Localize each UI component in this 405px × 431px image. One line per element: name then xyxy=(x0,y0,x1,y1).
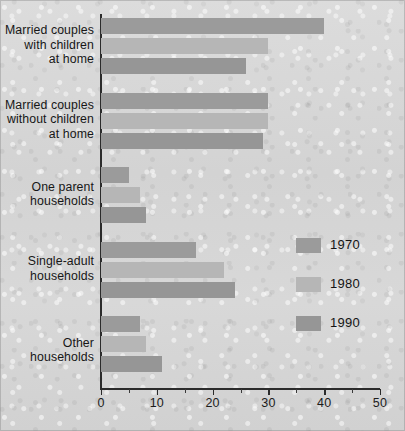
bar-1970-group-1 xyxy=(101,93,268,109)
bar-1980-group-3 xyxy=(101,262,224,278)
legend-label-1980: 1980 xyxy=(330,276,360,291)
legend-swatch-1970 xyxy=(296,238,321,253)
x-tick-label-30: 30 xyxy=(261,396,275,410)
x-tick-label-50: 50 xyxy=(373,396,387,410)
x-tick-0 xyxy=(101,389,102,395)
x-tick-minor-15 xyxy=(185,389,186,393)
bar-1980-group-4 xyxy=(101,336,146,352)
x-tick-50 xyxy=(380,389,381,395)
x-tick-label-0: 0 xyxy=(97,396,104,410)
bar-1970-group-3 xyxy=(101,242,196,258)
bar-1990-group-0 xyxy=(101,58,246,74)
bar-1980-group-1 xyxy=(101,113,268,129)
bar-1970-group-2 xyxy=(101,167,129,183)
x-tick-20 xyxy=(213,389,214,395)
category-label-0: Married couples with children at home xyxy=(5,23,94,67)
x-tick-minor-25 xyxy=(241,389,242,393)
x-tick-minor-35 xyxy=(296,389,297,393)
x-tick-minor-45 xyxy=(352,389,353,393)
legend-swatch-1990 xyxy=(296,316,321,331)
bar-1990-group-2 xyxy=(101,207,146,223)
plot-area: 01020304050 Married couples with childre… xyxy=(0,0,405,431)
x-tick-minor-5 xyxy=(129,389,130,393)
category-label-3: Single-adult households xyxy=(28,254,94,283)
bar-1990-group-3 xyxy=(101,282,235,298)
bar-1990-group-1 xyxy=(101,133,263,149)
category-label-2: One parent households xyxy=(30,180,94,209)
legend-label-1990: 1990 xyxy=(330,315,360,330)
x-tick-label-40: 40 xyxy=(317,396,331,410)
x-tick-30 xyxy=(268,389,269,395)
x-tick-40 xyxy=(324,389,325,395)
legend-swatch-1980 xyxy=(296,277,321,292)
x-tick-label-10: 10 xyxy=(150,396,164,410)
x-tick-label-20: 20 xyxy=(205,396,219,410)
legend-label-1970: 1970 xyxy=(330,237,360,252)
category-label-1: Married couples without children at home xyxy=(5,98,94,142)
bar-1980-group-2 xyxy=(101,187,140,203)
bar-1990-group-4 xyxy=(101,356,162,372)
bar-1970-group-0 xyxy=(101,18,324,34)
bar-1980-group-0 xyxy=(101,38,268,54)
category-label-4: Other households xyxy=(0,336,94,365)
bar-chart-figure: 01020304050 Married couples with childre… xyxy=(0,0,405,431)
x-tick-10 xyxy=(157,389,158,395)
bar-1970-group-4 xyxy=(101,316,140,332)
